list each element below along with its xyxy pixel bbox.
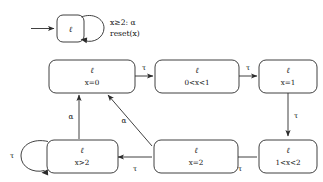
node-n3-box[interactable] bbox=[259, 140, 317, 173]
automaton-diagram: ℓ x≥2: α reset(x) τ τ τ τ τ bbox=[0, 0, 323, 182]
node-n2-box[interactable] bbox=[259, 60, 317, 93]
edge-label-n0-n1: τ bbox=[142, 63, 146, 72]
node-n0-constraint: x=0 bbox=[85, 78, 100, 87]
edge-label-n2-n3: τ bbox=[294, 111, 298, 120]
top-self-loop-guard-line1: x≥2: α bbox=[110, 18, 136, 27]
node-n3[interactable]: ℓ 1<x<2 bbox=[259, 140, 317, 173]
node-n2-constraint: x=1 bbox=[281, 78, 296, 87]
edge-label-n4-n0: α bbox=[122, 116, 127, 125]
top-self-loop-guard-line2: reset(x) bbox=[110, 29, 140, 38]
edge-label-n1-n2: τ bbox=[246, 63, 250, 72]
edge-label-n3-n4: τ bbox=[238, 164, 242, 173]
node-n1[interactable]: ℓ 0<x<1 bbox=[155, 60, 239, 93]
node-n0[interactable]: ℓ x=0 bbox=[49, 60, 135, 93]
node-n5-constraint: x>2 bbox=[75, 158, 90, 167]
edge-n5-self-loop-arrowhead bbox=[42, 169, 49, 175]
edge-n5-self-loop bbox=[21, 141, 48, 172]
edge-label-n4-n5: τ bbox=[133, 164, 137, 173]
figure-canvas: ℓ x≥2: α reset(x) τ τ τ τ τ bbox=[0, 0, 323, 182]
node-n5[interactable]: ℓ x>2 bbox=[47, 140, 118, 173]
node-n4-constraint: x=2 bbox=[189, 158, 204, 167]
node-n3-constraint: 1<x<2 bbox=[275, 158, 300, 167]
node-n1-box[interactable] bbox=[155, 60, 239, 93]
node-n0-box[interactable] bbox=[49, 60, 135, 93]
edge-n4-n0 bbox=[108, 95, 152, 146]
edge-label-n5-self-loop: τ bbox=[10, 151, 14, 160]
node-n2[interactable]: ℓ x=1 bbox=[259, 60, 317, 93]
node-n4-box[interactable] bbox=[154, 140, 238, 173]
top-automaton-group: ℓ x≥2: α reset(x) bbox=[31, 15, 140, 43]
node-n5-box[interactable] bbox=[47, 140, 118, 173]
region-graph-group: τ τ τ τ τ τ α α bbox=[10, 60, 317, 176]
node-n4[interactable]: ℓ x=2 bbox=[154, 140, 238, 173]
top-state-self-loop bbox=[82, 15, 105, 41]
edge-label-n5-n0: α bbox=[69, 112, 74, 121]
node-n1-constraint: 0<x<1 bbox=[184, 78, 209, 87]
